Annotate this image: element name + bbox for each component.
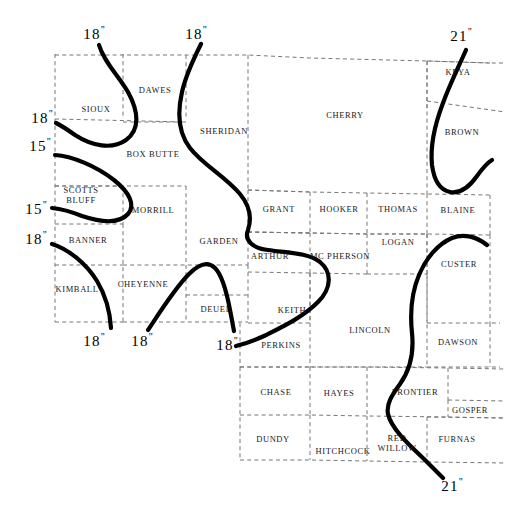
county-label-keith: Keith [278, 306, 307, 316]
county-label-hooker: Hooker [319, 205, 358, 215]
county-label-dawson: Dawson [438, 338, 478, 348]
county-label-red-willow: Red Willow [378, 434, 417, 453]
county-label-custer: Custer [441, 260, 477, 270]
inches-mark: " [101, 331, 105, 342]
inches-mark: " [43, 199, 47, 210]
inches-mark: " [459, 476, 463, 487]
county-label-chase: Chase [261, 388, 292, 398]
inches-mark: " [47, 136, 51, 147]
boundary-h-furnas-top [427, 417, 505, 418]
precipitation-map: Sioux Dawes Sheridan Cherry Keya Brown B… [0, 0, 513, 515]
boundary-h-dundy-bottom [240, 460, 505, 463]
boundary-north-edge [55, 55, 490, 63]
county-label-banner: Banner [69, 236, 108, 246]
inches-mark: " [234, 335, 238, 346]
isohyet-label-21-keya-top: 21" [450, 26, 472, 45]
inches-mark: " [43, 229, 47, 240]
scotts-bluff-line1: Scotts [63, 185, 98, 195]
county-label-dundy: Dundy [256, 435, 290, 445]
county-label-garden: Garden [199, 237, 238, 247]
county-label-gosper: Gosper [452, 406, 488, 416]
inches-mark: " [468, 26, 472, 37]
red-willow-line2: Willow [378, 443, 417, 453]
boundary-h-arthur-bottom [248, 272, 367, 274]
county-label-sioux: Sioux [82, 105, 111, 115]
inches-mark: " [149, 331, 153, 342]
isohyet-label-18-sioux-top: 18" [83, 24, 105, 43]
isohyet-18-dawes-keith [179, 44, 328, 346]
inches-mark: " [101, 24, 105, 35]
inches-mark: " [203, 24, 207, 35]
county-label-box-butte: Box Butte [127, 150, 180, 160]
county-label-furnas: Furnas [438, 435, 475, 445]
boundary-h-arthur-top [248, 232, 427, 234]
county-label-arthur: Arthur [251, 252, 289, 262]
boundary-h-gosper-top [448, 400, 505, 401]
county-label-perkins: Perkins [261, 341, 301, 351]
county-label-keya-paha: Keya [445, 68, 470, 78]
isohyet-label-15-west-upper: 15" [29, 136, 51, 155]
county-label-hayes: Hayes [324, 389, 355, 399]
county-label-dawes: Dawes [139, 86, 172, 96]
county-label-hitchcock: Hitchcock [316, 447, 371, 457]
red-willow-line1: Red [388, 433, 407, 443]
county-label-lincoln: Lincoln [349, 326, 391, 336]
isohyet-label-18-kimball-bot: 18" [83, 331, 105, 350]
county-label-thomas: Thomas [378, 205, 418, 215]
county-label-deuel: Deuel [201, 305, 232, 315]
county-label-scotts-bluff: Scotts Bluff [63, 186, 98, 205]
county-label-grant: Grant [263, 205, 295, 215]
county-label-mc-pherson: Mc Pherson [310, 252, 370, 262]
county-label-brown: Brown [445, 128, 480, 138]
boundary-h-chase-bottom [240, 415, 448, 417]
isohyet-18-sioux [56, 45, 136, 146]
county-label-cheyenne: Cheyenne [118, 280, 169, 290]
inches-mark: " [49, 108, 53, 119]
isohyet-label-21-south: 21" [441, 476, 463, 495]
county-label-cherry: Cherry [326, 111, 364, 121]
isohyet-label-18-banner: 18" [25, 229, 47, 248]
county-label-morrill: Morrill [132, 206, 174, 216]
isohyet-label-18-cheyenne-bot: 18" [131, 331, 153, 350]
county-label-blaine: Blaine [441, 206, 476, 216]
county-label-logan: Logan [382, 238, 415, 248]
isohyet-label-15-west-lower: 15" [25, 199, 47, 218]
scotts-bluff-line2: Bluff [66, 195, 95, 205]
county-label-frontier: Frontier [392, 388, 438, 398]
county-label-kimball: Kimball [56, 285, 99, 295]
isohyet-label-18-deuel-bot: 18" [216, 335, 238, 354]
isohyet-18-cheyenne-deuel [148, 264, 234, 331]
county-label-sheridan: Sheridan [200, 127, 248, 137]
isohyet-label-18-dawes-top: 18" [185, 24, 207, 43]
isohyet-label-18-west-sioux: 18" [31, 108, 53, 127]
